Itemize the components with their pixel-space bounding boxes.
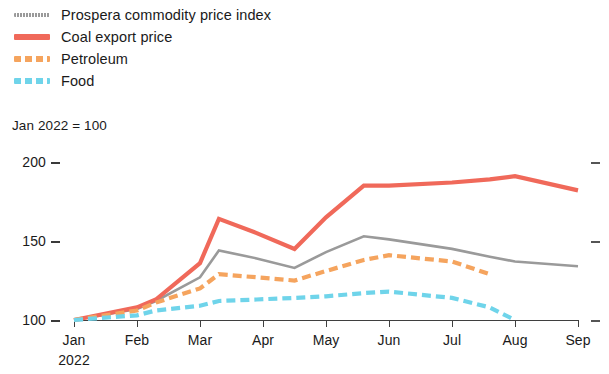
plot-area [0,0,609,374]
commodity-price-chart: Prospera commodity price index Coal expo… [0,0,609,374]
series-line-coal-export-price [74,176,578,320]
series-svg [0,0,609,374]
